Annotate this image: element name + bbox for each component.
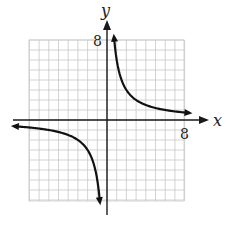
x-tick-8: 8 <box>180 126 189 142</box>
x-axis-arrow-icon <box>199 116 209 124</box>
y-axis-label: y <box>100 1 111 20</box>
y-tick-8: 8 <box>93 33 102 49</box>
x-axis-label: x <box>213 111 222 130</box>
coordinate-plane: x y 8 8 <box>0 0 232 228</box>
curve-branch-quadrant-1-end-arrow-icon <box>184 109 192 116</box>
curve-branch-quadrant-1-start-arrow-icon <box>111 34 118 42</box>
y-axis <box>103 20 111 215</box>
curve-branch-quadrant-3-start-arrow-icon <box>11 123 19 130</box>
curve-branch-quadrant-1 <box>114 37 189 113</box>
y-axis-arrow-icon <box>103 20 111 30</box>
curve-branch-quadrant-3 <box>14 126 100 202</box>
x-axis <box>13 116 209 124</box>
